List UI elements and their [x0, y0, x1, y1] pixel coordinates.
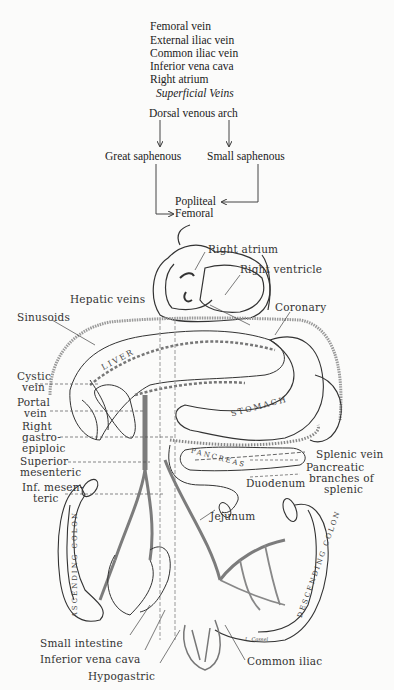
gastroepiploic-vein: [170, 425, 318, 445]
label-jejunum: Jejunum: [210, 511, 255, 522]
label-right-gastroepiploic: Right gastro- epiploic: [22, 421, 66, 454]
rectum: [184, 620, 221, 670]
stomach: [176, 337, 341, 442]
label-pancreatic-branches: Pancreatic branches of splenic: [306, 462, 374, 495]
label-duodenum: Duodenum: [246, 478, 306, 489]
label-hepatic-veins: Hepatic veins: [70, 294, 145, 305]
label-splenic-vein: Splenic vein: [316, 449, 384, 460]
label-right-atrium: Right atrium: [208, 244, 278, 255]
label-coronary: Coronary: [275, 302, 326, 313]
label-superior-mesenteric: Superior mesenteric: [20, 456, 81, 478]
label-cystic-vein: Cystic vein: [17, 371, 51, 393]
organ-label-ascending-colon: ASCENDING COLON: [71, 511, 79, 617]
label-right-ventricle: Right ventricle: [240, 264, 322, 275]
diaphragm: [50, 318, 341, 420]
label-inf-mesenteric: Inf. mesen- teric: [22, 482, 83, 504]
label-small-intestine: Small intestine: [40, 638, 123, 649]
label-hypogastric: Hypogastric: [88, 671, 155, 682]
gallbladder: [95, 385, 136, 438]
portal-circulation-illustration: [0, 0, 394, 690]
flowchart-arrows: [156, 120, 258, 214]
artist-signature: L. Cassel: [245, 636, 268, 642]
label-portal-vein: Portal vein: [17, 397, 50, 419]
descending-colon-vessels: [220, 545, 285, 610]
label-sinusoids: Sinusoids: [17, 312, 70, 323]
label-common-iliac: Common iliac: [247, 656, 322, 667]
label-inferior-vena-cava: Inferior vena cava: [40, 654, 141, 665]
